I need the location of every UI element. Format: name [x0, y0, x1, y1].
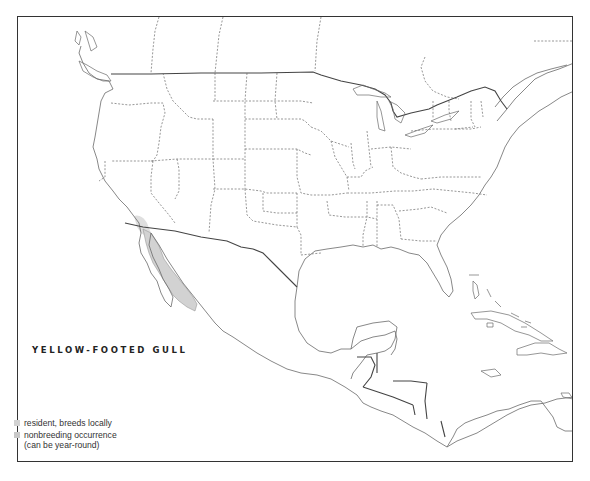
- legend: resident, breeds locally nonbreeding occ…: [14, 418, 117, 452]
- us-canada-border: [111, 72, 507, 117]
- range-resident-area: [143, 229, 197, 311]
- legend-label-nonbreeding: nonbreeding occurrence: [24, 430, 117, 440]
- legend-item-resident: resident, breeds locally: [14, 418, 117, 428]
- south-america-coast: [447, 401, 573, 447]
- resident-swatch-icon: [14, 420, 20, 426]
- legend-sublabel-nonbreeding: (can be year-round): [24, 440, 117, 450]
- islands: [75, 31, 573, 399]
- st-lawrence-coast: [495, 65, 567, 107]
- central-america-borders: [357, 353, 445, 437]
- great-lakes: [353, 85, 459, 137]
- gulf-coast: [295, 287, 397, 379]
- us-gulf-coast: [297, 91, 573, 297]
- map-title: YELLOW-FOOTED GULL: [32, 345, 188, 355]
- legend-item-nonbreeding: nonbreeding occurrence (can be year-roun…: [14, 430, 117, 450]
- range-map: [18, 17, 573, 462]
- legend-label-resident: resident, breeds locally: [24, 418, 112, 428]
- state-borders: [99, 17, 573, 255]
- nonbreeding-swatch-icon: [14, 432, 20, 438]
- yucatan-coast: [351, 331, 397, 355]
- map-frame: [17, 16, 573, 462]
